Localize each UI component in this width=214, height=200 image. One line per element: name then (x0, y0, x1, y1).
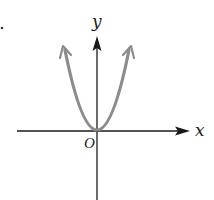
stray-mark (1, 27, 4, 30)
graph-svg: y x O (0, 0, 214, 200)
y-axis-label: y (91, 11, 102, 31)
parabola-graph: y x O (0, 0, 214, 200)
x-axis-label: x (195, 120, 205, 140)
origin-label: O (84, 135, 95, 151)
